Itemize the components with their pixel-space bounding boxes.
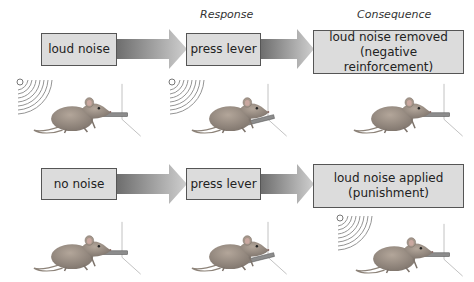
mouse-icon (192, 98, 269, 133)
consequence-line2: (punishment) (334, 186, 444, 201)
scene-stimulus-quiet (10, 216, 150, 282)
sound-waves-icon (337, 215, 372, 250)
stimulus-box: no noise (41, 168, 117, 200)
response-header: Response (200, 8, 253, 21)
mouse-icon (354, 98, 431, 133)
scene-response-quiet (160, 216, 300, 282)
arrow-right-icon (261, 162, 314, 206)
sound-waves-icon (17, 79, 52, 114)
scene-consequence-noise (330, 212, 474, 282)
arrow-right-icon (261, 27, 314, 71)
scene-stimulus-noise (10, 74, 150, 142)
consequence-line1: loud noise applied (334, 171, 444, 186)
consequence-line2: (negative reinforcement) (314, 45, 463, 75)
response-label: press lever (190, 177, 256, 192)
response-box: press lever (186, 168, 261, 200)
stimulus-label: no noise (54, 177, 105, 192)
sound-waves-icon (169, 79, 204, 114)
consequence-box: loud noise removed (negative reinforceme… (313, 30, 464, 74)
mouse-icon (34, 236, 111, 271)
mouse-icon (356, 238, 433, 273)
mouse-icon (34, 98, 111, 133)
stimulus-box: loud noise (41, 33, 117, 66)
consequence-box: loud noise applied (punishment) (313, 164, 464, 208)
arrow-right-icon (117, 162, 187, 206)
mouse-icon (192, 236, 269, 271)
consequence-header: Consequence (357, 8, 431, 21)
arrow-right-icon (117, 27, 187, 71)
response-box: press lever (186, 33, 261, 66)
scene-response-noise (160, 74, 300, 142)
stimulus-label: loud noise (48, 42, 110, 57)
consequence-line1: loud noise removed (314, 30, 463, 45)
response-label: press lever (190, 42, 256, 57)
scene-consequence-quiet (330, 76, 474, 144)
